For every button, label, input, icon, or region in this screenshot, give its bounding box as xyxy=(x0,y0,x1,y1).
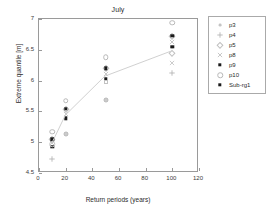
x-tick-mark xyxy=(146,168,147,171)
data-point xyxy=(63,98,69,104)
x-axis-label: Return periods (years) xyxy=(38,196,198,203)
legend-label: p4 xyxy=(229,30,236,40)
legend-marker-icon xyxy=(211,70,229,80)
legend-label: p8 xyxy=(229,50,236,60)
legend-marker-icon xyxy=(211,80,229,90)
data-point xyxy=(64,107,67,110)
legend-item-p9[interactable]: p9 xyxy=(211,60,263,70)
y-tick-label: 5.5 xyxy=(26,107,34,113)
y-tick-mark xyxy=(39,142,42,143)
y-tick-label: 6 xyxy=(31,77,34,83)
legend-marker-icon xyxy=(211,20,229,30)
data-point xyxy=(51,137,54,140)
x-tick-mark xyxy=(39,168,40,171)
y-tick-label: 5 xyxy=(31,138,34,144)
y-tick-mark xyxy=(39,19,42,20)
data-point xyxy=(169,39,175,45)
data-point xyxy=(50,129,56,135)
y-tick-mark xyxy=(39,50,42,51)
chart-legend: p3p4p5p8p9p10Sub-rg1 xyxy=(208,16,266,94)
x-tick-mark xyxy=(119,168,120,171)
legend-item-p10[interactable]: p10 xyxy=(211,70,263,80)
x-tick-mark xyxy=(66,168,67,171)
x-tick-mark xyxy=(92,168,93,171)
legend-item-p8[interactable]: p8 xyxy=(211,50,263,60)
x-tick-label: 20 xyxy=(61,175,68,181)
y-tick-label: 4.5 xyxy=(26,169,34,175)
legend-marker-icon xyxy=(211,50,229,60)
y-tick-mark xyxy=(39,111,42,112)
plot-axes xyxy=(38,18,198,172)
chart-title: July xyxy=(38,6,198,13)
data-point xyxy=(104,98,108,102)
data-point xyxy=(169,70,175,76)
data-point xyxy=(49,156,55,162)
legend-marker-icon xyxy=(211,30,229,40)
x-tick-label: 80 xyxy=(141,175,148,181)
legend-label: p10 xyxy=(229,70,239,80)
data-point xyxy=(50,141,56,147)
legend-item-sub-rg1[interactable]: Sub-rg1 xyxy=(211,80,263,90)
legend-label: p3 xyxy=(229,20,236,30)
data-point xyxy=(171,34,174,37)
data-point xyxy=(104,80,108,84)
legend-label: Sub-rg1 xyxy=(229,80,250,90)
legend-item-p5[interactable]: p5 xyxy=(211,40,263,50)
x-tick-mark xyxy=(172,168,173,171)
legend-item-p4[interactable]: p4 xyxy=(211,30,263,40)
legend-marker-icon xyxy=(211,40,229,50)
data-point xyxy=(171,45,174,48)
legend-label: p9 xyxy=(229,60,236,70)
y-axis-label: Extreme quantile [m] xyxy=(15,14,22,134)
data-point xyxy=(64,116,67,119)
data-point xyxy=(169,50,175,56)
chart-figure: July Extreme quantile [m] Return periods… xyxy=(0,0,270,218)
data-point xyxy=(104,67,107,70)
data-point xyxy=(64,132,68,136)
y-tick-mark xyxy=(39,81,42,82)
x-tick-mark xyxy=(199,168,200,171)
x-tick-label: 100 xyxy=(166,175,176,181)
x-tick-label: 40 xyxy=(88,175,95,181)
x-tick-label: 60 xyxy=(115,175,122,181)
legend-item-p3[interactable]: p3 xyxy=(211,20,263,30)
data-point xyxy=(170,20,176,26)
y-tick-mark xyxy=(39,173,42,174)
data-point xyxy=(103,54,109,60)
x-tick-label: 120 xyxy=(193,175,203,181)
legend-label: p5 xyxy=(229,40,236,50)
x-tick-label: 0 xyxy=(36,175,39,181)
legend-marker-icon xyxy=(211,60,229,70)
plot-area xyxy=(39,19,197,171)
data-point xyxy=(169,60,175,66)
y-tick-label: 7 xyxy=(31,15,34,21)
y-tick-label: 6.5 xyxy=(26,46,34,52)
